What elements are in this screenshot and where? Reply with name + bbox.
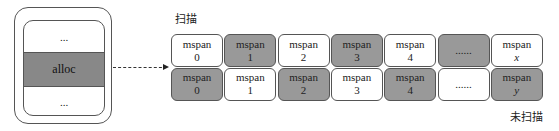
arrowhead-icon [163, 64, 169, 70]
mspan-name: mspan [183, 38, 212, 51]
mspan-grid: mspan0mspan1mspan2mspan3mspan4......mspa… [171, 34, 544, 101]
mspan-index: ...... [455, 44, 472, 57]
mspan-name: mspan [502, 38, 531, 51]
mspan-name: mspan [236, 71, 265, 84]
mspan-index: 4 [407, 51, 413, 64]
mspan-name: mspan [343, 71, 372, 84]
mspan-name: mspan [236, 38, 265, 51]
mspan-index: 0 [194, 51, 200, 64]
mspan-index: y [514, 84, 519, 97]
mspan-cell: mspan2 [278, 34, 330, 67]
mspan-cell: mspan0 [171, 68, 223, 101]
mspan-cell: mspan0 [171, 34, 223, 67]
mspan-index: 0 [194, 84, 200, 97]
heap-block: ... alloc ... [23, 20, 105, 116]
mspan-index: 4 [407, 84, 413, 97]
mspan-cell: mspan4 [384, 34, 436, 67]
heap-bottom-ellipsis: ... [24, 87, 104, 116]
mspan-cell: mspan1 [224, 34, 276, 67]
mspan-name: mspan [343, 38, 372, 51]
mspan-name: mspan [289, 71, 318, 84]
mspan-cell: mspany [491, 68, 543, 101]
mspan-index: 2 [301, 84, 307, 97]
mspan-name: mspan [183, 71, 212, 84]
mspan-name: mspan [396, 38, 425, 51]
dashed-arrow-line [113, 67, 167, 70]
mspan-cell: mspan3 [331, 68, 383, 101]
mspan-cell: mspan3 [331, 34, 383, 67]
alloc-region: alloc [24, 52, 104, 87]
mspan-name: mspan [502, 71, 531, 84]
scanned-label: 扫描 [175, 10, 197, 26]
mspan-cell: mspan1 [224, 68, 276, 101]
mspan-index: 3 [354, 84, 360, 97]
mspan-index: ...... [455, 78, 472, 91]
mspan-cell: ...... [438, 68, 490, 101]
mspan-cell: ...... [438, 34, 490, 67]
mspan-cell: mspan2 [278, 68, 330, 101]
mspan-index: x [514, 51, 519, 64]
mspan-index: 3 [354, 51, 360, 64]
mspan-cell: mspan4 [384, 68, 436, 101]
mspan-index: 2 [301, 51, 307, 64]
mspan-cell: mspanx [491, 34, 543, 67]
unscanned-label: 未扫描 [510, 108, 543, 124]
mspan-index: 1 [248, 84, 254, 97]
mspan-name: mspan [289, 38, 318, 51]
heap-top-ellipsis: ... [24, 21, 104, 52]
mspan-index: 1 [248, 51, 254, 64]
mspan-name: mspan [396, 71, 425, 84]
